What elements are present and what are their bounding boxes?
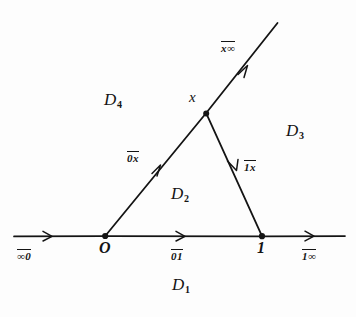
segment-label-one-x: 1x [244, 160, 256, 173]
segment-one-x [206, 114, 262, 237]
point-label-origin: O [99, 240, 111, 256]
region-label-d4: D4 [104, 91, 122, 110]
region-d2-subscript: 2 [184, 193, 189, 204]
region-label-d1: D1 [172, 276, 190, 295]
segment-label-origin-one: 01 [171, 249, 183, 262]
region-d4-letter: D [104, 90, 117, 109]
ray-origin-x-infinity [105, 23, 277, 236]
segment-x-infinity [206, 23, 278, 113]
diagram-lines [0, 0, 356, 317]
segment-label-one-infinity: 1∞ [302, 249, 316, 262]
segment-one-x-group [206, 114, 262, 237]
point-label-one: 1 [257, 240, 265, 256]
region-d3-subscript: 3 [299, 130, 304, 141]
real-axis [14, 231, 345, 241]
region-label-d3: D3 [286, 122, 304, 141]
region-d3-letter: D [286, 121, 299, 140]
region-d2-letter: D [171, 184, 184, 203]
figure-canvas: O 1 x ∞0 01 1∞ 0x x∞ 1x D1 D2 D3 D4 [0, 0, 356, 317]
vertex-dot-x [203, 110, 209, 116]
region-d1-letter: D [172, 275, 185, 294]
region-d1-subscript: 1 [185, 284, 190, 295]
segment-label-x-infinity: x∞ [221, 41, 235, 54]
segment-label-infinity-origin: ∞0 [17, 249, 31, 262]
point-label-x: x [189, 90, 196, 105]
segment-label-origin-x: 0x [127, 151, 139, 164]
region-label-d2: D2 [171, 185, 189, 204]
segment-origin-x [105, 113, 206, 236]
region-d4-subscript: 4 [117, 99, 122, 110]
